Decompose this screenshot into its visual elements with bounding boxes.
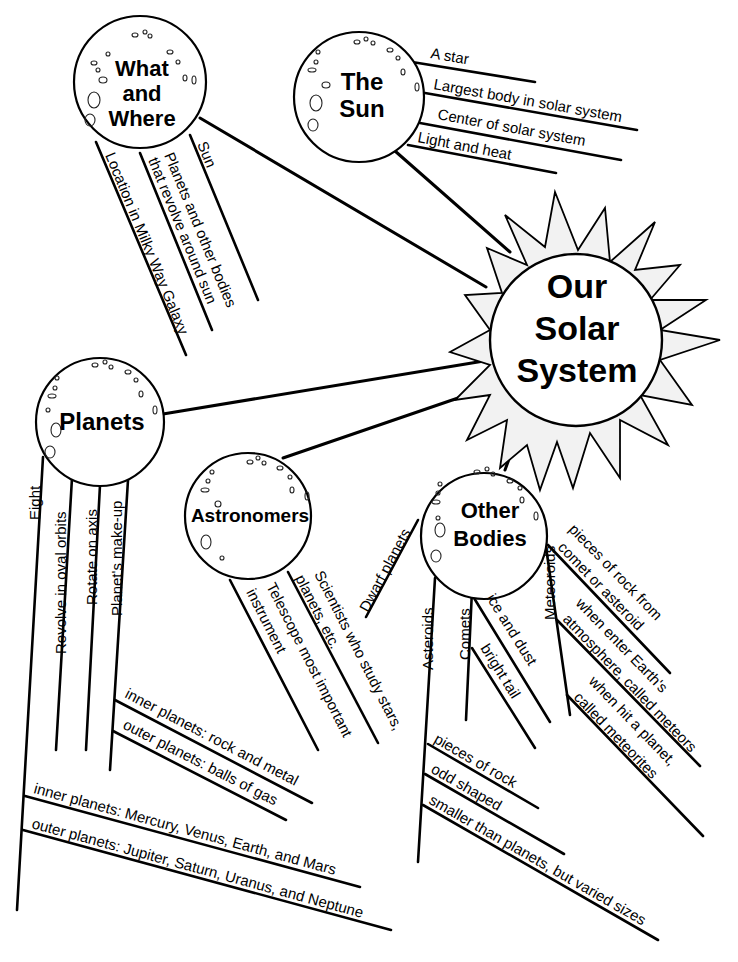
connector-the-sun (395, 151, 510, 252)
node-other-bodies: Other Bodies Dwarf planets Asteroids Com… (356, 467, 703, 940)
title-line-2: Bodies (453, 526, 526, 551)
label-revolve-oval-orbits: Revolve in oval orbits (52, 511, 69, 654)
label-planets-makeup: Planet's make-up (108, 501, 125, 616)
center-title-line-1: Our (547, 267, 607, 305)
label-sun: Sun (194, 139, 220, 170)
title: Astronomers (191, 505, 309, 526)
branch-eight (17, 457, 43, 910)
title-line-1: Other (461, 498, 520, 523)
connector-planets (163, 360, 490, 414)
node-the-sun: The Sun A star Largest body in solar sys… (294, 32, 637, 173)
label-eight: Eight (26, 485, 43, 520)
label-asteroids: Asteroids (419, 607, 436, 670)
title-line-1: What (115, 56, 169, 81)
title-line-2: Sun (339, 95, 384, 122)
center-title-line-2: Solar (534, 309, 619, 347)
branch-a-star (412, 62, 535, 82)
center-title-line-3: System (517, 351, 638, 389)
solar-system-concept-map: Our Solar System What and Where Sun Plan… (0, 0, 738, 962)
label-comets: Comets (456, 608, 473, 660)
label-rotate-axis: Rotate on axis (83, 509, 100, 605)
branch-inner-rock-metal (115, 700, 312, 803)
title: Planets (59, 408, 144, 435)
label-dwarf-planets: Dwarf planets (356, 525, 414, 614)
label-meteoroids: Meteoroids (541, 546, 558, 620)
title-line-3: Where (108, 106, 175, 131)
title-line-1: The (341, 68, 384, 95)
title-line-2: and (122, 81, 161, 106)
label-smaller-than-planets: smaller than planets, but varied sizes (427, 791, 650, 928)
node-what-and-where: What and Where Sun Planets and other bod… (74, 16, 258, 355)
branch-smaller (423, 805, 658, 940)
label-a-star: A star (430, 44, 471, 67)
